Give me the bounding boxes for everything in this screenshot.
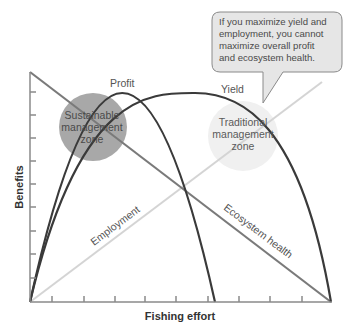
svg-text:zone: zone <box>81 133 104 145</box>
svg-text:and ecosystem health.: and ecosystem health. <box>219 52 315 63</box>
svg-text:Sustainable: Sustainable <box>65 109 120 121</box>
svg-text:management: management <box>212 128 273 140</box>
profit-label: Profit <box>110 77 135 89</box>
yield-label: Yield <box>221 83 244 95</box>
y-axis-title: Benefits <box>13 165 25 208</box>
svg-text:management: management <box>61 121 122 133</box>
svg-text:employment, you cannot: employment, you cannot <box>219 28 324 39</box>
x-axis-title: Fishing effort <box>145 310 216 322</box>
svg-text:If you maximize yield and: If you maximize yield and <box>219 16 327 27</box>
employment-label: Employment <box>88 203 142 248</box>
svg-text:Traditional: Traditional <box>219 116 268 128</box>
ecosystem-health-label: Ecosystem health <box>222 201 296 261</box>
fisheries-benefits-diagram: Sustainable management zone Traditional … <box>0 0 346 329</box>
svg-text:zone: zone <box>232 140 255 152</box>
svg-text:maximize overall profit: maximize overall profit <box>219 40 315 51</box>
